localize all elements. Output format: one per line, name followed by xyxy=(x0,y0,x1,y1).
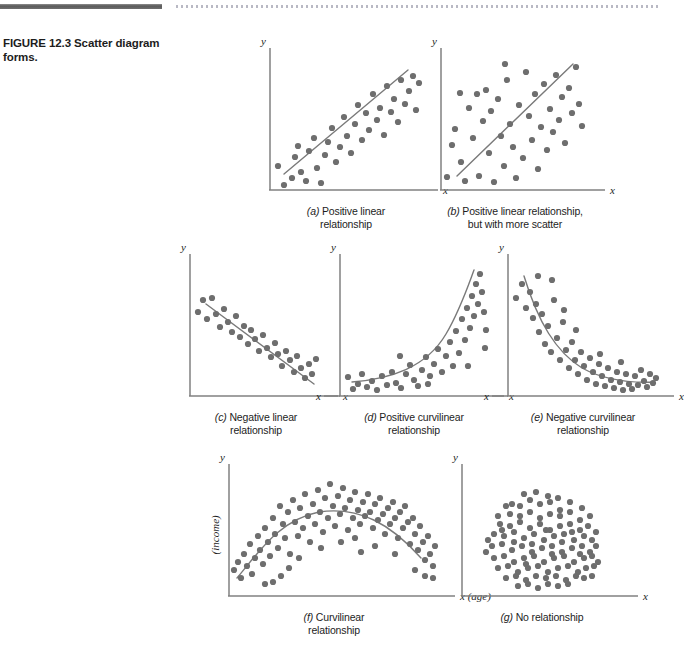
data-point xyxy=(618,359,624,365)
data-point xyxy=(272,340,278,346)
data-point xyxy=(335,493,341,499)
data-point xyxy=(557,513,563,519)
data-point xyxy=(538,124,544,130)
x-axis-label-left-d: x xyxy=(315,390,321,402)
scatter-plot-b: yx xyxy=(415,34,615,204)
data-point xyxy=(403,371,409,377)
data-point xyxy=(474,91,480,97)
data-point xyxy=(535,273,541,279)
data-point xyxy=(635,382,641,388)
data-point xyxy=(389,369,395,375)
data-point xyxy=(275,163,281,169)
data-point xyxy=(310,501,316,507)
data-point xyxy=(392,515,398,521)
data-point xyxy=(483,549,489,555)
data-point xyxy=(521,491,527,497)
data-point xyxy=(502,61,508,67)
data-point xyxy=(566,85,572,91)
trend-curve-e xyxy=(524,276,654,382)
data-point xyxy=(459,316,465,322)
y-axis-label-a: y xyxy=(260,35,266,47)
data-point xyxy=(423,354,429,360)
data-point xyxy=(195,309,201,315)
data-point xyxy=(374,387,380,393)
data-point xyxy=(265,539,271,545)
data-point xyxy=(549,277,555,283)
data-point xyxy=(450,363,456,369)
data-point xyxy=(480,118,486,124)
data-point xyxy=(280,521,286,527)
data-point xyxy=(511,529,517,535)
data-point xyxy=(471,313,477,319)
data-point xyxy=(476,173,482,179)
data-point xyxy=(470,135,476,141)
data-point xyxy=(572,357,578,363)
panel-caption-line2-c: relationship xyxy=(230,424,282,436)
data-point xyxy=(390,499,396,505)
data-points-c xyxy=(195,295,319,381)
data-point xyxy=(509,501,515,507)
data-point xyxy=(287,357,293,363)
data-point xyxy=(348,150,354,156)
data-point xyxy=(282,535,288,541)
data-point xyxy=(427,551,433,557)
data-point xyxy=(297,505,303,511)
data-point xyxy=(307,539,313,545)
data-point xyxy=(456,350,462,356)
data-point xyxy=(623,371,629,377)
data-point xyxy=(590,369,596,375)
data-point xyxy=(510,144,516,150)
data-point xyxy=(363,110,369,116)
data-point xyxy=(533,489,539,495)
data-point xyxy=(329,125,335,131)
data-point xyxy=(270,515,276,521)
data-point xyxy=(561,307,567,313)
data-point xyxy=(366,127,372,133)
data-point xyxy=(410,515,416,521)
data-point xyxy=(362,513,368,519)
data-point xyxy=(593,543,599,549)
scatter-plot-g: yx xyxy=(436,450,648,610)
data-point xyxy=(608,377,614,383)
y-axis-label-g: y xyxy=(452,451,458,463)
figure-caption: FIGURE 12.3 Scatter diagram forms. xyxy=(3,36,193,64)
data-point xyxy=(302,375,308,381)
data-point xyxy=(377,495,383,501)
data-point xyxy=(358,549,364,555)
data-point xyxy=(489,543,495,549)
data-point xyxy=(338,539,344,545)
data-point xyxy=(262,581,268,587)
data-point xyxy=(542,341,548,347)
data-point xyxy=(344,133,350,139)
data-point xyxy=(526,113,532,119)
data-point xyxy=(325,515,331,521)
data-point xyxy=(320,529,326,535)
data-point xyxy=(397,353,403,359)
data-point xyxy=(306,148,312,154)
data-point xyxy=(312,521,318,527)
data-point xyxy=(498,133,504,139)
data-point xyxy=(411,377,417,383)
trend-line-b xyxy=(457,64,573,176)
data-point xyxy=(491,555,497,561)
data-point xyxy=(537,501,543,507)
data-point xyxy=(379,373,385,379)
data-point xyxy=(290,497,296,503)
data-point xyxy=(213,311,219,317)
x-axis-label-g: x xyxy=(642,590,648,602)
data-point xyxy=(602,383,608,389)
data-point xyxy=(513,175,519,181)
data-point xyxy=(617,379,623,385)
x-axis-label-e: x xyxy=(678,390,684,402)
data-point xyxy=(525,581,531,587)
data-point xyxy=(422,557,428,563)
data-point xyxy=(275,545,281,551)
trend-curve-group-e xyxy=(524,276,654,382)
data-point xyxy=(345,527,351,533)
panel-caption-line1-e: Negative curvilinear xyxy=(543,411,635,423)
data-point xyxy=(318,180,324,186)
data-point xyxy=(549,551,555,557)
data-point xyxy=(579,505,585,511)
data-point xyxy=(402,101,408,107)
data-point xyxy=(231,567,237,573)
